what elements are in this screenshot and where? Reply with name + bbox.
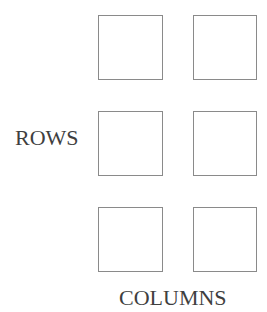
grid-cell-r2-c2 xyxy=(193,111,257,176)
grid-cell-r1-c2 xyxy=(193,15,257,80)
grid-cell-r3-c1 xyxy=(98,207,163,272)
rows-label: ROWS xyxy=(15,127,79,149)
grid-cell-r2-c1 xyxy=(98,111,163,176)
columns-label: COLUMNS xyxy=(119,287,227,309)
grid-cell-r3-c2 xyxy=(193,207,257,272)
grid-cell-r1-c1 xyxy=(98,15,163,80)
